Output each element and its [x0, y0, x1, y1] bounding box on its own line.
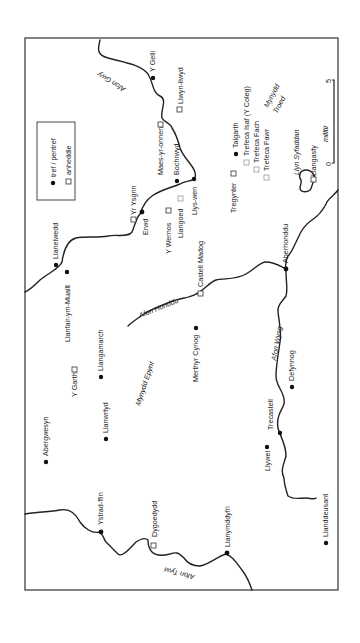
town-marker-abergwesyn — [44, 460, 48, 464]
hamlet-marker-y-garth — [72, 367, 77, 372]
town-label-talgarth: Talgarth — [231, 122, 240, 148]
town-label-llanfair-ym-muallt: Llanfair-ym-Muallt — [63, 285, 72, 342]
town-label-llywel: Llywel — [263, 451, 272, 471]
hamlet-label-llangasty: Llangasty — [309, 145, 318, 176]
hamlet-label-llangoed: Llangoed — [176, 208, 185, 238]
hamlet-label-dygoedydd: Dygoedydd — [150, 501, 159, 537]
hamlet-marker-castell-madog — [198, 291, 203, 296]
hamlet-marker-trefeca-fach — [254, 167, 259, 172]
town-marker-aberhonddu — [284, 267, 289, 272]
town-marker-llanelwedd — [54, 263, 58, 267]
town-label-trecastell: Trecastell — [266, 399, 275, 430]
town-marker-defynnog — [290, 385, 294, 389]
town-marker-llangamarch — [99, 375, 103, 379]
town-label-llanddeusant: Llanddeusant — [321, 494, 330, 537]
scale-unit-label: milltir — [321, 125, 330, 142]
town-label-bochrwyd: Bochrwyd — [172, 143, 181, 175]
hamlet-label-yr-ysgrin: Yr Ysgrin — [129, 186, 138, 215]
legend-town-label: tref / pentref — [49, 138, 58, 177]
town-marker-erwd — [140, 210, 145, 215]
river-tywi — [25, 510, 252, 590]
legend: tref / pentref anheddle — [37, 122, 75, 200]
hamlet-label-y-garth: Y Garth — [70, 372, 79, 397]
town-label-y-gelli: Y Gelli — [148, 51, 157, 72]
scale-start-label: 0 — [324, 162, 333, 166]
town-label-llanwrtyd: Llanwrtyd — [101, 402, 110, 433]
town-label-defynnog: Defynnog — [287, 350, 296, 381]
town-marker-llys-wen — [192, 177, 196, 181]
town-label-merthyr-cynog: Merthyr Cynog — [191, 335, 200, 382]
legend-hamlet-label: anheddle — [64, 145, 73, 175]
scale-bar-line — [332, 80, 334, 163]
town-label-llanelwedd: Llanelwedd — [51, 223, 60, 259]
scale-bar: 5 0 milltir — [321, 79, 334, 166]
town-marker-llanwrtyd — [104, 437, 108, 441]
legend-hamlet-symbol-icon — [66, 179, 71, 184]
town-marker-y-gelli — [151, 76, 155, 80]
scale-end-label: 5 — [324, 79, 333, 83]
hamlet-marker-yr-ysgrin — [131, 217, 136, 222]
legend-town-symbol-icon — [51, 181, 55, 185]
town-marker-llywel — [265, 445, 269, 449]
town-label-aberhonddu: Aberhonddu — [281, 224, 290, 263]
region-label-mynydd-epynt: Mynydd Epynt — [133, 360, 156, 407]
river-label-honddu: Afon Honddu — [136, 296, 179, 320]
town-label-llanymddyfri: Llanymddyfri — [223, 506, 232, 547]
hamlet-marker-trefeca-fawr — [264, 175, 269, 180]
hamlet-label-maes-yr-onnen: Maes-yr-onnen — [156, 127, 165, 175]
town-marker-llanddeusant — [324, 541, 328, 545]
hamlet-label-tregynter: Tregynter — [229, 182, 238, 213]
hamlet-marker-llangoed — [178, 196, 183, 201]
hamlet-marker-y-wernos — [166, 208, 171, 213]
town-marker-bochrwyd — [175, 179, 179, 183]
hamlet-label-trefeca-fawr: Trefeca Fawr — [262, 128, 271, 171]
town-label-llangamarch: Llangamarch — [96, 329, 105, 371]
hamlet-marker-trefeca-isaf — [244, 160, 249, 165]
town-marker-llanfair-ym-muallt — [65, 270, 69, 274]
town-label-abergwesyn: Abergwesyn — [41, 416, 50, 456]
town-label-llys-wen: Llys-wen — [190, 187, 199, 215]
hamlet-label-y-wernos: Y Wernos — [164, 222, 173, 254]
hamlet-marker-llangasty — [311, 177, 316, 182]
region-label-llyn-syfaddan: Llyn Syfaddan — [292, 129, 301, 175]
town-marker-ystrad-ffin — [99, 530, 104, 535]
hamlet-label-trefeca-fach: Trefeca Fach — [252, 121, 261, 163]
river-label-gwy: Afon Gwy — [96, 70, 128, 95]
hamlet-label-castell-madog: Castell Madog — [196, 241, 205, 287]
river-label-tywi: Afon Tywi — [163, 565, 197, 582]
towns: Y Gelli Bochrwyd Llys-wen Erwd Talgarth … — [41, 51, 330, 556]
river-honddu — [128, 262, 284, 326]
river-label-wysg: Afon Wysg — [269, 326, 284, 363]
hamlet-marker-maes-yr-onnen — [158, 122, 163, 127]
town-marker-trecastell — [278, 431, 282, 435]
town-marker-merthyr-cynog — [194, 326, 198, 330]
town-label-erwd: Erwd — [141, 219, 150, 235]
hamlet-marker-llwyn-llwyd — [177, 107, 182, 112]
town-label-ystrad-ffin: Ystrad-ffin — [96, 492, 105, 525]
hamlet-marker-dygoedydd — [151, 543, 156, 548]
hamlet-marker-tregynter — [231, 171, 236, 176]
town-marker-llanymddyfri — [225, 551, 230, 556]
town-marker-talgarth — [234, 152, 238, 156]
hamlets: Llwyn-llwyd Maes-yr-onnen Yr Ysgrin Y We… — [70, 67, 318, 548]
hamlet-label-llwyn-llwyd: Llwyn-llwyd — [176, 67, 185, 104]
map-canvas: tref / pentref anheddle 5 0 milltir Afon… — [0, 0, 360, 643]
hamlet-label-trefeca-isaf: Trefeca Isaf (Y Coleg) — [242, 86, 251, 156]
